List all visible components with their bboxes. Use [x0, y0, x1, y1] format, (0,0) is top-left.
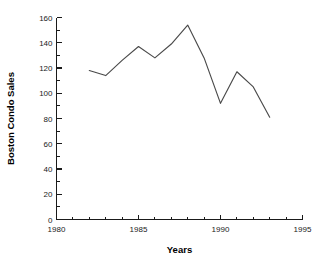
x-axis-major-ticks [57, 215, 303, 220]
x-tick-label: 1985 [130, 225, 148, 234]
y-tick-label: 20 [44, 190, 53, 199]
line-chart: 020406080100120140160 1980198519901995 B… [0, 0, 329, 267]
x-tick-label: 1980 [48, 225, 66, 234]
data-series-line [89, 25, 269, 117]
y-axis-title: Boston Condo Sales [5, 72, 16, 165]
y-tick-label: 40 [44, 165, 53, 174]
x-axis-title: Years [167, 244, 192, 255]
y-axis-major-ticks [57, 18, 62, 220]
y-tick-label: 120 [39, 64, 53, 73]
y-tick-label: 140 [39, 39, 53, 48]
chart-container: 020406080100120140160 1980198519901995 B… [0, 0, 329, 267]
y-tick-label: 160 [39, 14, 53, 23]
x-axis-tick-labels: 1980198519901995 [48, 225, 312, 234]
y-tick-label: 80 [44, 115, 53, 124]
y-tick-label: 0 [48, 216, 53, 225]
y-tick-label: 100 [39, 89, 53, 98]
y-axis-tick-labels: 020406080100120140160 [39, 14, 53, 225]
y-tick-label: 60 [44, 140, 53, 149]
x-tick-label: 1990 [212, 225, 230, 234]
x-tick-label: 1995 [294, 225, 312, 234]
